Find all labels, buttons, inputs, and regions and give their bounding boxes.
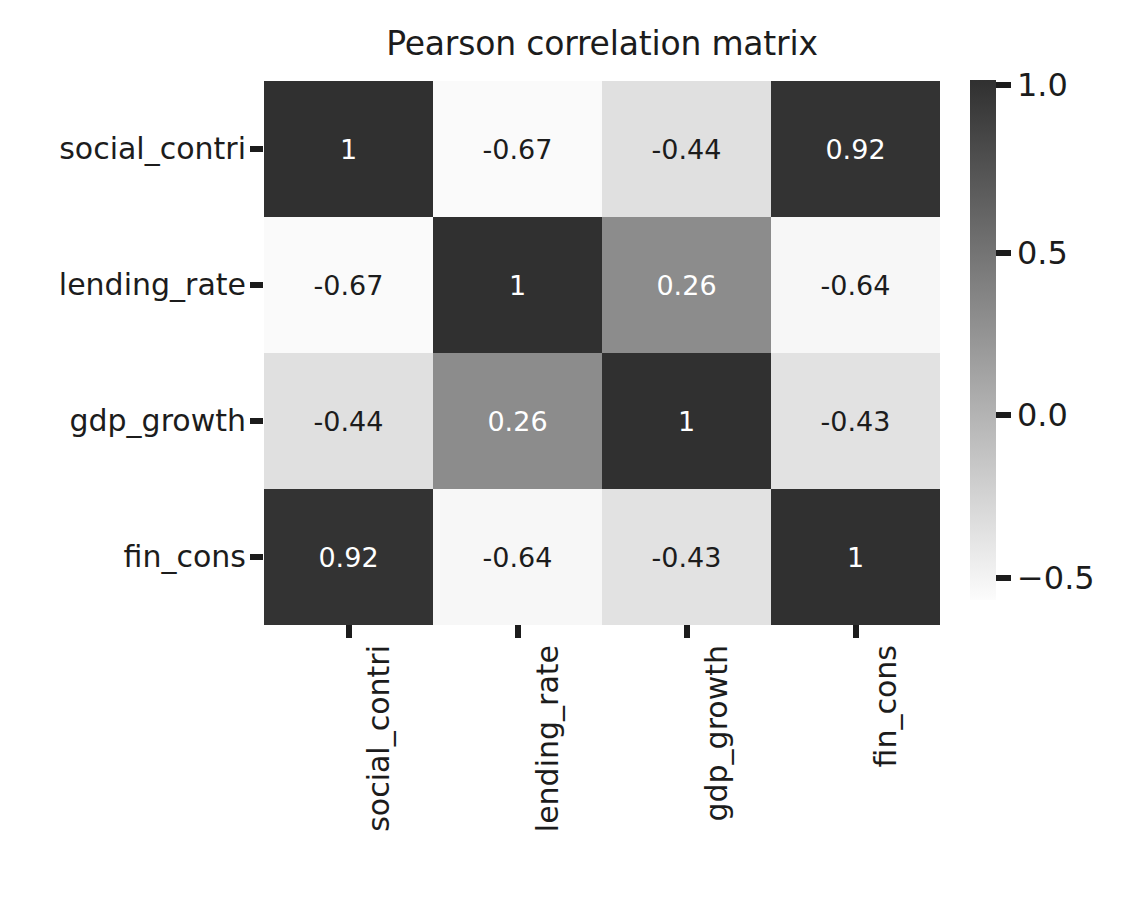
colorbar-tick-label: 0.0 xyxy=(1017,399,1068,431)
colorbar-tick-label: −0.5 xyxy=(1017,562,1095,594)
heatmap-cell[interactable]: 1 xyxy=(602,353,771,489)
cell-value: 0.26 xyxy=(487,408,547,435)
chart-title: Pearson correlation matrix xyxy=(264,24,940,63)
x-tick-mark xyxy=(684,625,690,638)
y-tick-mark xyxy=(250,418,263,424)
x-tick-gdp-growth: gdp_growth xyxy=(602,625,771,905)
x-tick-mark xyxy=(853,625,859,638)
heatmap-grid: 1 -0.67 -0.44 0.92 -0.67 1 0.26 -0.64 -0… xyxy=(264,81,940,625)
heatmap-cell[interactable]: -0.67 xyxy=(264,217,433,353)
colorbar-tick-mark xyxy=(996,82,1011,88)
heatmap-cell[interactable]: -0.43 xyxy=(602,489,771,625)
cell-value: 0.92 xyxy=(825,136,885,163)
colorbar: 1.0 0.5 0.0 −0.5 xyxy=(970,80,996,600)
x-tick-label: social_contri xyxy=(364,645,394,832)
y-tick-fin-cons: fin_cons xyxy=(0,489,248,625)
x-tick-mark xyxy=(515,625,521,638)
y-tick-mark xyxy=(250,146,263,152)
y-tick-label: lending_rate xyxy=(59,270,248,300)
cell-value: 1 xyxy=(847,544,864,571)
cell-value: 0.26 xyxy=(656,272,716,299)
heatmap-cell[interactable]: 1 xyxy=(433,217,602,353)
x-axis: social_contri lending_rate gdp_growth fi… xyxy=(264,625,940,905)
y-tick-label: fin_cons xyxy=(124,542,248,572)
heatmap-cell[interactable]: 1 xyxy=(264,81,433,217)
heatmap-cell[interactable]: -0.67 xyxy=(433,81,602,217)
x-tick-label: gdp_growth xyxy=(702,645,732,822)
y-tick-label: social_contri xyxy=(59,134,248,164)
colorbar-gradient xyxy=(970,80,996,600)
heatmap-cell[interactable]: 0.26 xyxy=(602,217,771,353)
x-tick-label: lending_rate xyxy=(533,645,563,832)
colorbar-tick-mark xyxy=(996,412,1011,418)
cell-value: -0.67 xyxy=(483,136,553,163)
heatmap-cell[interactable]: 0.26 xyxy=(433,353,602,489)
y-tick-lending-rate: lending_rate xyxy=(0,217,248,353)
y-tick-mark xyxy=(250,282,263,288)
correlation-heatmap-figure: Pearson correlation matrix social_contri… xyxy=(0,0,1126,912)
heatmap-cell[interactable]: -0.44 xyxy=(264,353,433,489)
heatmap-cell[interactable]: 1 xyxy=(771,489,940,625)
cell-value: -0.44 xyxy=(314,408,384,435)
cell-value: -0.43 xyxy=(821,408,891,435)
cell-value: -0.44 xyxy=(652,136,722,163)
y-tick-label: gdp_growth xyxy=(69,406,248,436)
colorbar-tick-label: 1.0 xyxy=(1017,69,1068,101)
cell-value: -0.64 xyxy=(483,544,553,571)
colorbar-tick-mark xyxy=(996,575,1011,581)
cell-value: 1 xyxy=(678,408,695,435)
heatmap-cell[interactable]: 0.92 xyxy=(264,489,433,625)
cell-value: 1 xyxy=(509,272,526,299)
cell-value: 1 xyxy=(340,136,357,163)
cell-value: -0.64 xyxy=(821,272,891,299)
colorbar-tick-mark xyxy=(996,250,1011,256)
heatmap-cell[interactable]: -0.44 xyxy=(602,81,771,217)
x-tick-lending-rate: lending_rate xyxy=(433,625,602,905)
y-tick-gdp-growth: gdp_growth xyxy=(0,353,248,489)
y-axis: social_contri lending_rate gdp_growth fi… xyxy=(0,81,248,625)
x-tick-label: fin_cons xyxy=(871,645,901,767)
heatmap-cell[interactable]: 0.92 xyxy=(771,81,940,217)
heatmap-cell[interactable]: -0.64 xyxy=(771,217,940,353)
heatmap-cell[interactable]: -0.43 xyxy=(771,353,940,489)
cell-value: -0.67 xyxy=(314,272,384,299)
cell-value: 0.92 xyxy=(318,544,378,571)
x-tick-fin-cons: fin_cons xyxy=(771,625,940,905)
colorbar-tick-label: 0.5 xyxy=(1017,237,1068,269)
x-tick-mark xyxy=(346,625,352,638)
cell-value: -0.43 xyxy=(652,544,722,571)
y-tick-social-contri: social_contri xyxy=(0,81,248,217)
heatmap-cell[interactable]: -0.64 xyxy=(433,489,602,625)
y-tick-mark xyxy=(250,554,263,560)
x-tick-social-contri: social_contri xyxy=(264,625,433,905)
